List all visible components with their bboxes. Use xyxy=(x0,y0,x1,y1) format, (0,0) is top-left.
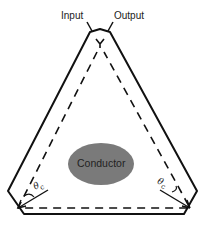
waveguide-diagram xyxy=(0,0,208,231)
output-label: Output xyxy=(114,10,144,21)
input-label: Input xyxy=(61,10,83,21)
left-angle-arc xyxy=(24,194,34,197)
output-fiber xyxy=(108,22,113,31)
right-angle-arc xyxy=(172,186,177,192)
conductor-label: Conductor xyxy=(77,157,125,169)
left-normal-line xyxy=(18,190,48,208)
input-fiber xyxy=(87,22,92,31)
y-junction xyxy=(96,39,104,48)
